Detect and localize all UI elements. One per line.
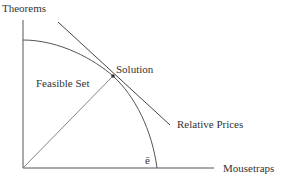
frontier-curve	[23, 40, 157, 168]
intercept-label: ē	[145, 154, 150, 166]
solution-point	[111, 74, 115, 78]
y-axis-label: Theorems	[2, 2, 46, 14]
feasible-set-label: Feasible Set	[36, 77, 89, 89]
x-axis-label: Mousetraps	[223, 162, 274, 174]
origin-ray	[23, 76, 113, 168]
relative-prices-label: Relative Prices	[177, 118, 243, 130]
solution-label: Solution	[116, 63, 154, 75]
production-possibilities-diagram: Theorems Solution Feasible Set Relative …	[0, 0, 288, 182]
